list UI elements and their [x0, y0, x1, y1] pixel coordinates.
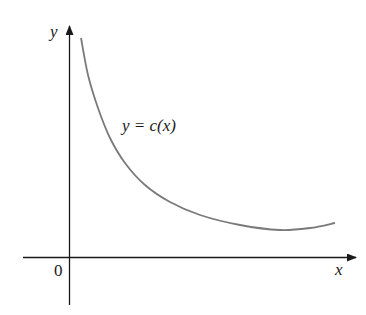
y-axis-label: y [48, 22, 58, 41]
curve-c-of-x [81, 38, 335, 230]
curve-label: y = c(x) [120, 116, 176, 135]
chart-canvas: y x x x 0 y = c(x) [0, 0, 366, 315]
origin-label: 0 [54, 261, 63, 280]
x-label: x [334, 260, 343, 279]
